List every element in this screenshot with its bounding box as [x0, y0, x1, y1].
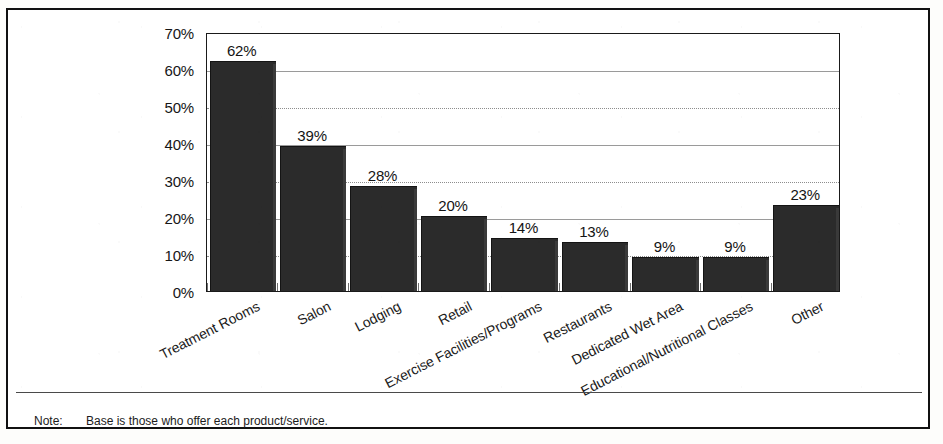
bar-value-label: 14%	[509, 219, 538, 236]
bar	[210, 61, 276, 291]
y-axis-tick-label: 70%	[165, 25, 194, 42]
y-axis-tick-label: 30%	[165, 173, 194, 190]
bar	[632, 257, 698, 291]
y-axis-tick-label: 50%	[165, 99, 194, 116]
bar-value-label: 23%	[790, 186, 819, 203]
x-axis-tick-mark	[630, 283, 631, 291]
note-text: Base is those who offer each product/ser…	[86, 414, 328, 428]
bar-slot: 13%	[562, 34, 627, 291]
y-axis-tick-label: 60%	[165, 62, 194, 79]
x-axis-tick-mark	[700, 283, 701, 291]
bar	[703, 257, 769, 291]
x-axis-tick-mark	[418, 283, 419, 291]
bar-slot: 28%	[350, 34, 415, 291]
bar-value-label: 39%	[297, 127, 326, 144]
bar-slot: 14%	[491, 34, 556, 291]
bar	[562, 242, 628, 291]
x-axis-tick-mark	[207, 283, 208, 291]
bar-value-label: 20%	[438, 197, 467, 214]
bar-slot: 20%	[421, 34, 486, 291]
bar	[491, 238, 557, 291]
x-axis-tick-mark	[559, 283, 560, 291]
x-axis-tick-mark	[277, 283, 278, 291]
bar-series: 62%39%28%20%14%13%9%9%23%	[207, 34, 839, 291]
bar-value-label: 62%	[227, 42, 256, 59]
y-axis: Percent of Revenue 0%10%20%30%40%50%60%7…	[128, 33, 200, 292]
note-label: Note:	[34, 414, 86, 428]
x-axis-tick-mark	[348, 283, 349, 291]
note-row: Note:Base is those who offer each produc…	[34, 414, 328, 428]
bar	[421, 216, 487, 291]
bar	[350, 186, 416, 291]
y-axis-tick-label: 20%	[165, 210, 194, 227]
chart-outer-frame: Percent of Revenue 0%10%20%30%40%50%60%7…	[6, 8, 930, 429]
bar-slot: 62%	[210, 34, 275, 291]
plot-area: 62%39%28%20%14%13%9%9%23%	[206, 33, 840, 292]
cut-off-title-fragment	[250, 0, 550, 4]
bar-slot: 9%	[632, 34, 697, 291]
bar-value-label: 9%	[654, 238, 675, 255]
x-axis-tick-mark	[771, 283, 772, 291]
chart-page: Percent of Revenue 0%10%20%30%40%50%60%7…	[0, 0, 943, 444]
y-axis-tick-label: 10%	[165, 247, 194, 264]
note-separator	[16, 392, 922, 393]
x-axis-tick-mark	[489, 283, 490, 291]
bar-slot: 23%	[773, 34, 838, 291]
bar-value-label: 13%	[579, 223, 608, 240]
bar-slot: 39%	[280, 34, 345, 291]
bar-slot: 9%	[703, 34, 768, 291]
bar	[280, 146, 346, 291]
bar	[773, 205, 839, 291]
y-axis-tick-label: 40%	[165, 136, 194, 153]
y-axis-tick-label: 0%	[173, 284, 194, 301]
bar-value-label: 9%	[724, 238, 745, 255]
bar-value-label: 28%	[368, 167, 397, 184]
